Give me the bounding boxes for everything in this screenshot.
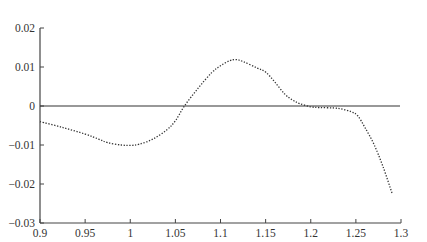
y-tick-label: 0 (29, 100, 35, 112)
x-tick-label: 1 (127, 227, 133, 239)
x-tick-label: 0.95 (75, 227, 95, 239)
error-line-chart: Error 0.90.9511.051.11.151.21.251.3 0.02… (0, 0, 427, 242)
plot-series (40, 60, 400, 193)
y-tick-label: −0.01 (8, 139, 35, 151)
y-tick-label: −0.02 (8, 178, 35, 190)
x-tick-label: 1.2 (304, 227, 319, 239)
x-axis-ticks: 0.90.9511.051.11.151.21.251.3 (33, 219, 409, 239)
y-tick-label: 0.02 (15, 22, 35, 34)
y-axis-ticks: 0.020.010−0.01−0.02−0.03 (8, 22, 44, 229)
x-tick-label: 1.3 (394, 227, 409, 239)
y-tick-label: 0.01 (15, 61, 35, 73)
x-tick-label: 1.25 (346, 227, 366, 239)
error-curve (40, 60, 392, 193)
y-tick-label: −0.03 (8, 217, 35, 229)
axes (40, 28, 401, 223)
x-tick-label: 1.15 (256, 227, 276, 239)
x-tick-label: 1.1 (213, 227, 228, 239)
x-tick-label: 1.05 (165, 227, 185, 239)
x-tick-label: 0.9 (33, 227, 48, 239)
